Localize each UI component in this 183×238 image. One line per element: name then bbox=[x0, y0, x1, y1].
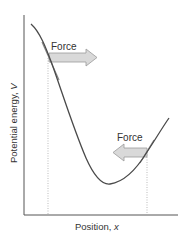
x-axis-label: Position, x bbox=[75, 221, 120, 232]
force-arrow-left bbox=[113, 144, 147, 161]
force-label-left: Force bbox=[51, 41, 77, 52]
force-label-right: Force bbox=[117, 132, 143, 143]
y-axis-label: Potential energy, V bbox=[8, 82, 19, 163]
potential-energy-diagram: Force Force Potential energy, V Position… bbox=[0, 0, 183, 238]
